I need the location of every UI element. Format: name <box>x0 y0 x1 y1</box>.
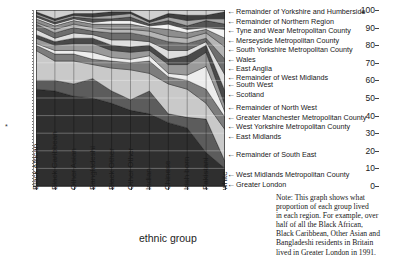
legend-item-label: Greater Manchester Metropolitan County <box>236 113 366 122</box>
legend-arrow-icon: ← <box>227 80 235 89</box>
legend-item-label: Tyne and Wear Metropolitan County <box>236 26 351 35</box>
note-line: proportion of each group lived <box>276 202 397 211</box>
x-tick-label: Other Other <box>127 148 135 190</box>
legend-arrow-icon: ← <box>227 55 235 64</box>
legend-arrow-icon: ← <box>227 113 235 122</box>
x-tick-label: Other Asian <box>70 148 78 190</box>
legend-item-label: South Yorkshire Metropolitan County <box>236 45 353 54</box>
x-axis-title: ethnic group <box>139 232 197 244</box>
legend-item-label: Remainder of Yorkshire and Humberside <box>236 7 365 16</box>
legend-item-label: East Midlands <box>236 132 281 141</box>
x-tick-label: Indian <box>145 168 153 190</box>
legend-item-label: West Midlands Metropolitan County <box>236 170 349 179</box>
legend-arrow-icon: ← <box>227 26 235 35</box>
legend-arrow-icon: ← <box>227 150 235 159</box>
note-line: half of all the Black African, <box>276 220 397 229</box>
x-tick-label: Bangladeshi <box>89 146 97 190</box>
note-line: Bangladeshi residents in Britain <box>276 238 397 247</box>
legend-item-label: Remainder of North West <box>236 103 317 112</box>
x-tick-label: Black Other <box>108 148 116 190</box>
x-tick-label: Chinese <box>164 161 172 190</box>
legend-item-label: Greater London <box>236 180 286 189</box>
legend-arrow-icon: ← <box>227 90 235 99</box>
note-line: lived in Greater London in 1991. <box>276 248 397 257</box>
legend-item-label: Wales <box>236 55 256 64</box>
legend-item-label: South West <box>236 80 273 89</box>
y-axis-star-marker: * <box>5 123 8 130</box>
legend-arrow-icon: ← <box>227 17 235 26</box>
note-line: Note: This graph shows what <box>276 193 397 202</box>
x-tick-label: Black Caribbean <box>51 131 59 190</box>
legend-item-label: Remainder of Northern Region <box>236 17 334 26</box>
x-tick-label: Black African <box>32 144 40 190</box>
legend-item-label: Remainder of South East <box>236 150 316 159</box>
legend-item-label: East Anglia <box>236 64 272 73</box>
legend-arrow-icon: ← <box>227 180 235 189</box>
chart-page: * 1009080706050403020100 Black AfricanBl… <box>0 0 397 270</box>
legend-item-label: Merseyside Metropolitan County <box>236 36 339 45</box>
legend-arrow-icon: ← <box>227 36 235 45</box>
x-tick-label: Pakistani <box>202 158 210 190</box>
legend-arrow-icon: ← <box>227 132 235 141</box>
note-line: Black Caribbean, Other Asian and <box>276 229 397 238</box>
x-tick-label: Irish born <box>183 157 191 190</box>
note-line: in each region. For example, over <box>276 211 397 220</box>
chart-note: Note: This graph shows whatproportion of… <box>276 193 397 257</box>
legend-arrow-icon: ← <box>227 103 235 112</box>
legend-arrow-icon: ← <box>227 64 235 73</box>
legend-arrow-icon: ← <box>227 170 235 179</box>
legend: ←Remainder of Yorkshire and Humberside←R… <box>227 0 397 190</box>
legend-arrow-icon: ← <box>227 122 235 131</box>
legend-arrow-icon: ← <box>227 45 235 54</box>
legend-arrow-icon: ← <box>227 7 235 16</box>
legend-item-label: West Yorkshire Metropolitan County <box>236 122 350 131</box>
legend-item-label: Scotland <box>236 90 264 99</box>
